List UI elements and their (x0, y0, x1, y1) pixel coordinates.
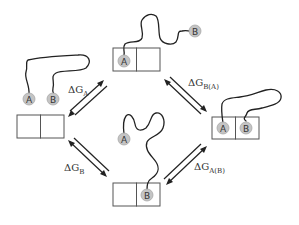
state-bottom: A B (113, 113, 164, 206)
state-right: A B (212, 89, 281, 139)
bead-a-label: A (121, 57, 128, 67)
state-top: A B (113, 14, 201, 71)
delta-g-a-given-b-label: ΔGA(B) (194, 161, 225, 175)
bead-b-label: B (144, 191, 150, 201)
delta-g-b-given-a-label: ΔGB(A) (188, 77, 219, 91)
bead-b-label: B (243, 124, 249, 134)
bead-a-label: A (220, 124, 227, 134)
thermodynamic-cycle-diagram: A B A B A B A B ΔGA (0, 0, 299, 225)
binding-site-a-bottom (113, 183, 137, 206)
delta-g-b-label: ΔGB (64, 162, 84, 176)
bead-b-label: B (50, 95, 56, 105)
linker-string-bottom (123, 113, 164, 190)
binding-site-a-left (17, 115, 41, 138)
delta-g-a-label: ΔGA (68, 84, 89, 98)
bead-b-label: B (192, 27, 198, 37)
bead-a-label: A (121, 135, 128, 145)
binding-site-b-top (137, 48, 161, 71)
state-left: A B (17, 55, 89, 138)
binding-site-b-left (41, 115, 65, 138)
bead-a-label: A (26, 95, 33, 105)
